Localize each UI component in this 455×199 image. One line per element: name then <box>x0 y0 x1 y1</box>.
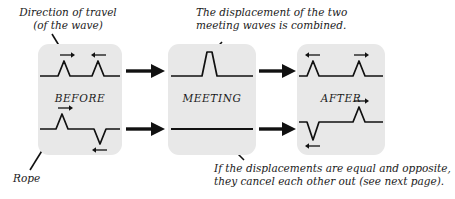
after-top-left-pulse-arrow <box>305 52 320 58</box>
caption-displacement-combined: The displacement of the two meeting wave… <box>196 6 366 32</box>
after-bottom-rope <box>299 107 383 140</box>
before-bottom-right-pulse-arrow <box>92 147 107 153</box>
meeting-top-combined-pulse <box>171 52 253 76</box>
panel-after-waves <box>297 44 385 155</box>
after-bottom-left-pulse-arrow <box>305 143 320 149</box>
before-top-rope <box>40 61 120 76</box>
before-top-right-pulse-arrow <box>91 52 106 58</box>
after-bottom-right-pulse-arrow <box>354 98 369 104</box>
before-bottom-left-pulse-arrow <box>58 105 73 111</box>
wave-superposition-figure: Direction of travel (of the wave) Rope T… <box>0 0 455 199</box>
after-top-right-pulse-arrow <box>354 52 369 58</box>
caption-rope: Rope <box>13 172 40 185</box>
flow-arrow-before-to-meeting-top <box>126 62 166 80</box>
caption-direction-of-travel: Direction of travel (of the wave) <box>8 6 128 32</box>
after-top-rope <box>299 61 383 76</box>
caption-displacements-cancel: If the displacements are equal and oppos… <box>214 162 454 188</box>
before-bottom-row <box>40 105 120 153</box>
before-bottom-rope <box>40 114 120 144</box>
after-bottom-row <box>299 98 383 149</box>
meeting-top-row <box>171 52 253 76</box>
panel-before-waves <box>38 44 122 155</box>
flow-arrow-meeting-to-after-bottom <box>259 120 297 138</box>
flow-arrow-before-to-meeting-bottom <box>126 120 166 138</box>
before-top-left-pulse-arrow <box>60 52 75 58</box>
after-top-row <box>299 52 383 76</box>
panel-meeting-waves <box>168 44 256 155</box>
before-top-row <box>40 52 120 76</box>
panel-meeting: MEETING <box>168 44 256 155</box>
panel-before: BEFORE <box>38 44 122 155</box>
flow-arrow-meeting-to-after-top <box>259 62 297 80</box>
panel-after: AFTER <box>297 44 385 155</box>
